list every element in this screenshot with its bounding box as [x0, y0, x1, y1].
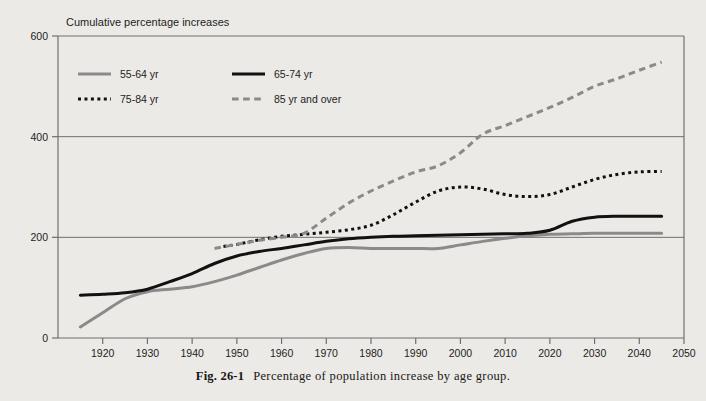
legend-label: 55-64 yr — [120, 68, 159, 80]
x-tick-label: 2020 — [538, 347, 562, 359]
legend-label: 65-74 yr — [274, 68, 313, 80]
x-tick-group: 1920193019401950196019701980199020002010… — [91, 338, 696, 359]
legend-label: 75-84 yr — [120, 93, 159, 105]
chart-legend: 55-64 yr65-74 yr75-84 yr85 yr and over — [78, 68, 342, 105]
legend-label: 85 yr and over — [274, 93, 342, 105]
y-tick-label: 400 — [30, 131, 48, 143]
x-tick-label: 2040 — [628, 347, 652, 359]
x-tick-label: 2000 — [449, 347, 473, 359]
y-tick-label: 0 — [42, 332, 48, 344]
series-line-55-64-yr — [80, 233, 661, 327]
x-tick-label: 2010 — [493, 347, 517, 359]
x-tick-label: 2050 — [672, 347, 696, 359]
x-tick-label: 1990 — [404, 347, 428, 359]
x-tick-label: 1970 — [315, 347, 339, 359]
y-tick-group: 0200400600 — [30, 30, 58, 344]
series-line-65-74-yr — [80, 216, 661, 295]
x-tick-label: 2030 — [583, 347, 607, 359]
x-tick-label: 1930 — [136, 347, 160, 359]
x-tick-label: 1960 — [270, 347, 294, 359]
y-tick-label: 600 — [30, 30, 48, 42]
series-line-85-yr-and-over — [215, 62, 662, 248]
x-tick-label: 1980 — [359, 347, 383, 359]
chart-title: Cumulative percentage increases — [66, 16, 230, 28]
x-tick-label: 1920 — [91, 347, 115, 359]
x-tick-label: 1950 — [225, 347, 249, 359]
figure-container: 0200400600 19201930194019501960197019801… — [0, 0, 706, 401]
figure-caption: Fig. 26-1Percentage of population increa… — [0, 366, 706, 384]
line-chart: 0200400600 19201930194019501960197019801… — [0, 0, 706, 401]
figure-number: Fig. 26-1 — [196, 369, 244, 383]
x-tick-label: 1940 — [180, 347, 204, 359]
series-group — [80, 62, 661, 327]
y-tick-label: 200 — [30, 231, 48, 243]
gridlines — [58, 36, 684, 338]
figure-caption-text: Percentage of population increase by age… — [253, 369, 510, 383]
